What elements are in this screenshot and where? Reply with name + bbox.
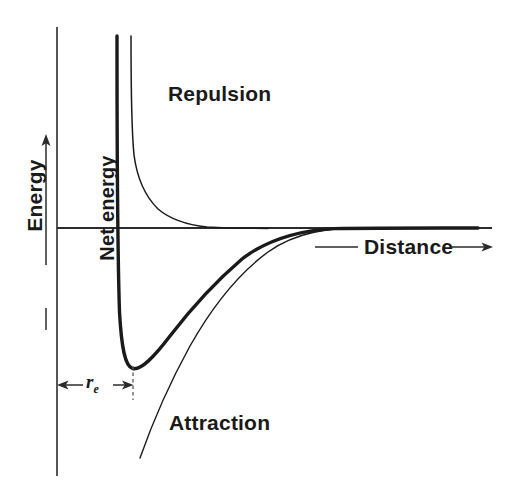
attraction-label: Attraction: [169, 412, 270, 433]
distance-axis-label: Distance: [364, 236, 453, 257]
equilibrium-separation-subscript: e: [93, 382, 98, 396]
energy-axis-label: Energy: [24, 159, 45, 231]
potential-energy-diagram: Repulsion Attraction Distance Energy Net…: [0, 0, 514, 488]
net-energy-label: Net energy: [97, 155, 117, 260]
repulsion-curve: [131, 36, 268, 228]
repulsion-label: Repulsion: [168, 83, 271, 104]
equilibrium-separation-label: re: [86, 371, 99, 397]
